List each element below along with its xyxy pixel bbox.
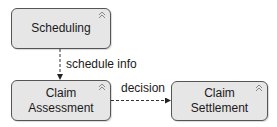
node-label: Claim Assessment	[28, 86, 93, 116]
edge-label-decision: decision	[121, 81, 165, 95]
collapse-chevron-icon[interactable]	[254, 83, 264, 93]
diagram-canvas: Scheduling Claim Assessment Claim Settle…	[0, 0, 277, 127]
node-claim-settlement[interactable]: Claim Settlement	[171, 81, 268, 121]
node-claim-assessment[interactable]: Claim Assessment	[11, 80, 111, 121]
collapse-chevron-icon[interactable]	[97, 10, 107, 20]
edge-label-schedule-info: schedule info	[66, 57, 137, 71]
node-scheduling[interactable]: Scheduling	[11, 8, 111, 49]
node-label: Claim Settlement	[191, 86, 248, 116]
node-label: Scheduling	[31, 21, 90, 36]
collapse-chevron-icon[interactable]	[97, 82, 107, 92]
